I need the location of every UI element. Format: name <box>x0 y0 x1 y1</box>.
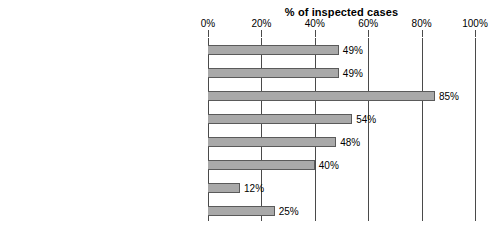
bar-row: Accommodation25% <box>208 199 475 222</box>
x-axis-tick-label: 80% <box>412 18 432 29</box>
bar-value-label: 40% <box>319 159 339 170</box>
x-axis-tick-label: 40% <box>305 18 325 29</box>
bar-row: Attitudes to offending49% <box>208 38 475 61</box>
bar-value-label: 54% <box>356 113 376 124</box>
bar <box>208 183 240 193</box>
bar <box>208 91 435 101</box>
bar <box>208 45 339 55</box>
x-axis-tick-mark <box>422 30 423 37</box>
x-axis-tick-label: 20% <box>251 18 271 29</box>
chart-title: % of inspected cases <box>208 6 475 18</box>
x-axis-tick-mark <box>261 30 262 37</box>
x-axis-tick-mark <box>208 30 209 37</box>
bar-value-label: 48% <box>340 136 360 147</box>
x-axis-tick-label: 0% <box>201 18 215 29</box>
bar-chart: % of inspected cases 0%20%40%60%80%100% … <box>0 0 500 236</box>
bar <box>208 114 352 124</box>
bar <box>208 68 339 78</box>
bar <box>208 206 275 216</box>
plot-area: Attitudes to offending49%Family and rela… <box>208 38 475 221</box>
bar <box>208 160 315 170</box>
bar-value-label: 25% <box>279 205 299 216</box>
bar-row: Drug misuse48% <box>208 130 475 153</box>
x-axis-tick-mark <box>315 30 316 37</box>
bar-row: Family and relationships49% <box>208 61 475 84</box>
bar-value-label: 49% <box>343 67 363 78</box>
x-axis-tick-mark <box>368 30 369 37</box>
x-axis-tick-label: 60% <box>358 18 378 29</box>
bar-value-label: 12% <box>244 182 264 193</box>
bar-value-label: 49% <box>343 44 363 55</box>
bar-value-label: 85% <box>439 90 459 101</box>
bar-row: Alcohol misuse40% <box>208 153 475 176</box>
bar <box>208 137 336 147</box>
bar-row: Education, training and employment12% <box>208 176 475 199</box>
gridline <box>475 38 476 221</box>
bar-row: Lifestyle, including friends and associa… <box>208 107 475 130</box>
x-axis-tick-mark <box>475 30 476 37</box>
x-axis-tick-label: 100% <box>462 18 488 29</box>
bar-row: Thinking and behaviour85% <box>208 84 475 107</box>
